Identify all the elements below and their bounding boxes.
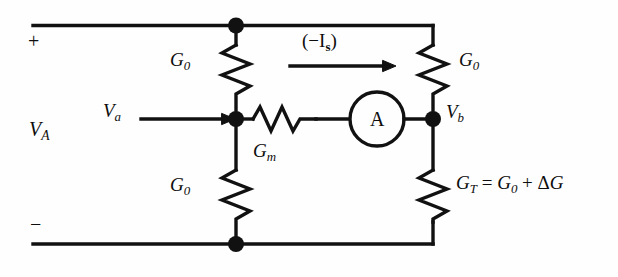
resistor-term1-symbol: G <box>497 172 511 193</box>
resistor-plus-sign: + <box>522 172 533 193</box>
resistor-bottom-left-subscript: 0 <box>184 183 190 198</box>
resistor-bottom-right-subscript: T <box>470 181 477 196</box>
resistor-bottom-left <box>222 170 250 244</box>
resistor-top-right-subscript: 0 <box>473 58 479 73</box>
resistor-bottom-right-symbol: G <box>456 172 470 193</box>
resistor-bottom-left-label: G0 <box>170 174 190 199</box>
resistor-middle-label: Gm <box>253 140 276 165</box>
current-label-close-paren: ) <box>330 30 336 51</box>
junction-dot-top <box>228 18 244 34</box>
resistor-bottom-right <box>419 170 447 222</box>
node-a-subscript: a <box>115 109 121 124</box>
current-arrow-head <box>383 61 396 72</box>
source-voltage-label: VA <box>29 118 50 144</box>
resistor-top-left <box>222 45 250 110</box>
node-a-symbol: V <box>103 100 115 121</box>
resistor-middle-symbol: G <box>253 140 267 161</box>
resistor-top-right-label: G0 <box>459 49 479 74</box>
node-b-label: Vb <box>446 101 464 126</box>
circuit-diagram: + − VA Va Vb (−Is) G0 G0 G0 Gm GT = G0 +… <box>0 0 618 277</box>
node-a-label: Va <box>103 100 121 125</box>
node-b-subscript: b <box>458 110 464 125</box>
junction-dot-node-b <box>425 111 441 127</box>
resistor-term2-symbol: G <box>550 172 564 193</box>
current-source-label: (−Is) <box>302 30 337 55</box>
resistor-bottom-left-symbol: G <box>170 174 184 195</box>
node-b-symbol: V <box>446 101 458 122</box>
source-voltage-symbol: V <box>29 118 41 140</box>
resistor-top-right <box>419 45 447 110</box>
delta-symbol: Δ <box>538 172 550 193</box>
resistor-top-left-subscript: 0 <box>184 58 190 73</box>
current-label-minus: − <box>308 30 319 51</box>
resistor-equals-sign: = <box>482 172 493 193</box>
resistor-top-left-symbol: G <box>170 49 184 70</box>
junction-dot-bottom <box>228 236 244 252</box>
ammeter-label: A <box>370 108 384 131</box>
resistor-top-left-label: G0 <box>170 49 190 74</box>
junction-dot-node-a <box>228 111 244 127</box>
resistor-bottom-right-label: GT = G0 + ΔG <box>456 172 564 197</box>
resistor-middle <box>253 107 316 131</box>
resistor-middle-subscript: m <box>267 149 276 164</box>
resistor-top-right-symbol: G <box>459 49 473 70</box>
source-voltage-subscript: A <box>41 128 49 143</box>
terminal-minus-sign: − <box>30 213 41 236</box>
terminal-plus-sign: + <box>28 30 39 53</box>
